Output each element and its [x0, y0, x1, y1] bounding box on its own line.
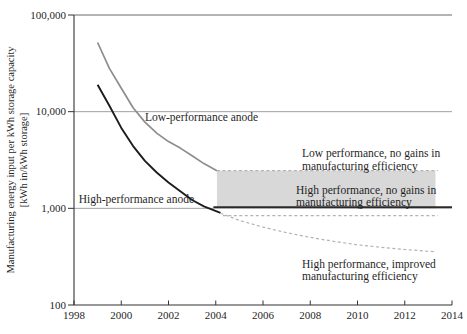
y-tick-label-100000: 100,000 — [30, 9, 66, 21]
y-axis-label-line-1: Manufacturing energy input per kWh stora… — [5, 46, 16, 274]
annotation-low-no-gains-label-line-1: Low performance, no gains in — [302, 147, 441, 160]
annotation-low-no-gains-label: Low performance, no gains inmanufacturin… — [302, 147, 441, 173]
annotation-high-improved-label: High performance, improvedmanufacturing … — [302, 258, 436, 284]
annotation-high-performance-anode-label: High-performance anode — [79, 193, 194, 206]
y-axis-label-line-2: [kWh in/kWh storage] — [18, 113, 29, 207]
x-tick-label-2010: 2010 — [347, 309, 370, 321]
x-tick-label-2006: 2006 — [252, 309, 275, 321]
annotation-low-performance-anode-label-line-1: Low-performance anode — [145, 111, 258, 124]
y-tick-label-10000: 10,000 — [36, 105, 67, 117]
annotation-low-no-gains-label-line-2: manufacturing efficiency — [302, 160, 418, 173]
annotation-high-improved-label-line-1: High performance, improved — [302, 258, 436, 271]
energy-input-chart-figure: 100,00010,0001,0001001998200020022004200… — [0, 0, 467, 334]
series-high-performance-improved-manufacturing-efficiency — [221, 213, 436, 252]
annotation-high-improved-label-line-2: manufacturing efficiency — [302, 270, 418, 283]
x-tick-label-2012: 2012 — [394, 309, 416, 321]
x-tick-label-2002: 2002 — [158, 309, 180, 321]
annotation-high-performance-anode-label-line-1: High-performance anode — [79, 193, 194, 206]
annotation-low-performance-anode-label: Low-performance anode — [145, 111, 258, 124]
chart-canvas: 100,00010,0001,0001001998200020022004200… — [0, 0, 467, 334]
x-tick-label-2014: 2014 — [441, 309, 464, 321]
x-tick-label-2000: 2000 — [110, 309, 133, 321]
x-tick-label-2008: 2008 — [299, 309, 322, 321]
annotation-high-no-gains-label-line-2: manufacturing efficiency — [296, 196, 412, 209]
series-low-performance-anode — [98, 43, 217, 171]
x-tick-label-1998: 1998 — [63, 309, 86, 321]
y-tick-label-1000: 1,000 — [41, 202, 66, 214]
annotation-high-no-gains-label-line-1: High performance, no gains in — [296, 184, 436, 197]
x-tick-label-2004: 2004 — [205, 309, 228, 321]
